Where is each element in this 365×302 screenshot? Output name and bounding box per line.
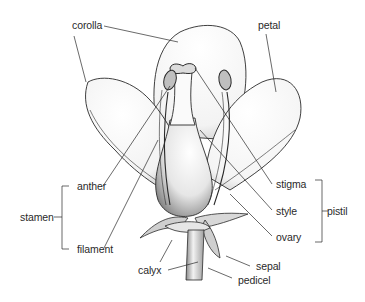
label-stamen: stamen	[20, 211, 54, 223]
label-stigma: stigma	[276, 178, 306, 190]
label-calyx: calyx	[138, 264, 161, 276]
label-corolla: corolla	[72, 19, 102, 31]
label-anther: anther	[77, 180, 106, 192]
label-style: style	[276, 205, 297, 217]
label-filament: filament	[77, 243, 113, 255]
label-sepal: sepal	[256, 260, 281, 272]
label-pedicel: pedicel	[238, 274, 271, 286]
flower-illustration	[0, 0, 365, 302]
label-ovary: ovary	[276, 231, 301, 243]
pedicel	[186, 230, 204, 280]
flower-anatomy-diagram: corolla petal anther stamen filament sti…	[0, 0, 365, 302]
label-pistil: pistil	[327, 205, 347, 217]
label-petal: petal	[258, 19, 280, 31]
